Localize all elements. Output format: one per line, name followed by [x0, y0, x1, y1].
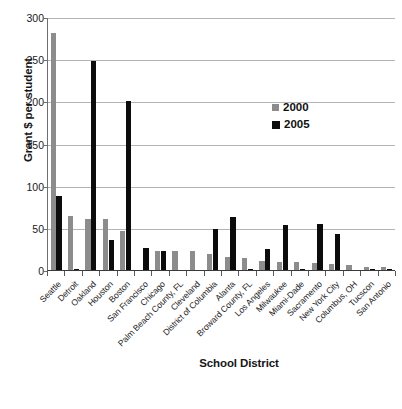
legend-item: 2000	[272, 101, 310, 114]
x-axis-category-labels: SeattleDetroitOaklandHoustonBostonSan Fr…	[0, 0, 402, 409]
legend-item-label: 2000	[283, 102, 309, 114]
legend-swatch-2000-icon	[272, 104, 279, 111]
legend-swatch-2005-icon	[272, 121, 280, 129]
bar-chart: Grant $ per student 300250200150100500 S…	[0, 0, 402, 409]
x-axis-title-text: School District	[199, 357, 279, 369]
legend-item-label: 2005	[284, 119, 310, 131]
chart-legend: 20002005	[272, 101, 310, 131]
legend-item: 2005	[272, 118, 310, 131]
x-axis-title: School District	[0, 357, 402, 369]
